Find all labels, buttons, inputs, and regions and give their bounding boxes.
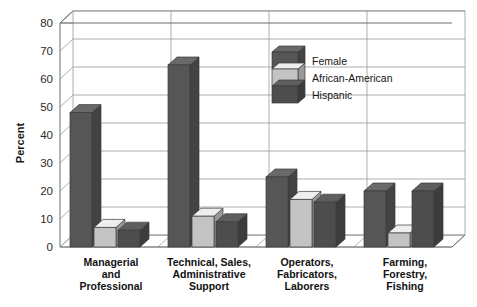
y-tick-label: 60 xyxy=(40,73,53,85)
y-tick-label: 20 xyxy=(40,185,53,197)
bar-3-group-4 xyxy=(412,183,443,247)
category-label-line: Operators, xyxy=(280,256,333,268)
bar-chart: 01020304050607080 Percent ManagerialandP… xyxy=(0,0,477,307)
category-labels: ManagerialandProfessionalTechnical, Sale… xyxy=(79,256,427,292)
y-tick-label: 10 xyxy=(40,213,53,225)
y-tick-label: 70 xyxy=(40,45,53,57)
category-label-line: and xyxy=(102,268,121,280)
y-tick-label: 0 xyxy=(47,241,53,253)
category-label-line: Technical, Sales, xyxy=(167,256,251,268)
category-label-line: Fishing xyxy=(386,280,423,292)
category-label-line: Fabricators, xyxy=(277,268,337,280)
category-label-line: Forestry, xyxy=(383,268,427,280)
y-tick-label: 40 xyxy=(40,129,53,141)
bar-3-group-3 xyxy=(314,194,345,247)
y-tick-label: 80 xyxy=(40,17,53,29)
y-tick-label: 50 xyxy=(40,101,53,113)
plot-background xyxy=(60,11,465,247)
legend-label: African-American xyxy=(312,72,393,84)
category-label-line: Farming, xyxy=(383,256,427,268)
category-label-line: Support xyxy=(189,280,230,292)
category-label-line: Laborers xyxy=(285,280,330,292)
bar-3-group-1 xyxy=(118,222,149,247)
category-label-line: Professional xyxy=(79,280,142,292)
legend-label: Female xyxy=(312,55,347,67)
legend-label: Hispanic xyxy=(312,89,352,101)
y-tick-labels: 01020304050607080 xyxy=(40,17,53,253)
category-label-line: Administrative xyxy=(173,268,246,280)
bar-3-group-2 xyxy=(216,214,247,247)
y-tick-label: 30 xyxy=(40,157,53,169)
chart-canvas: 01020304050607080 Percent ManagerialandP… xyxy=(0,0,477,307)
y-axis-title-label: Percent xyxy=(14,122,26,163)
y-axis-title-text: Percent xyxy=(14,122,26,163)
category-label-line: Managerial xyxy=(84,256,139,268)
